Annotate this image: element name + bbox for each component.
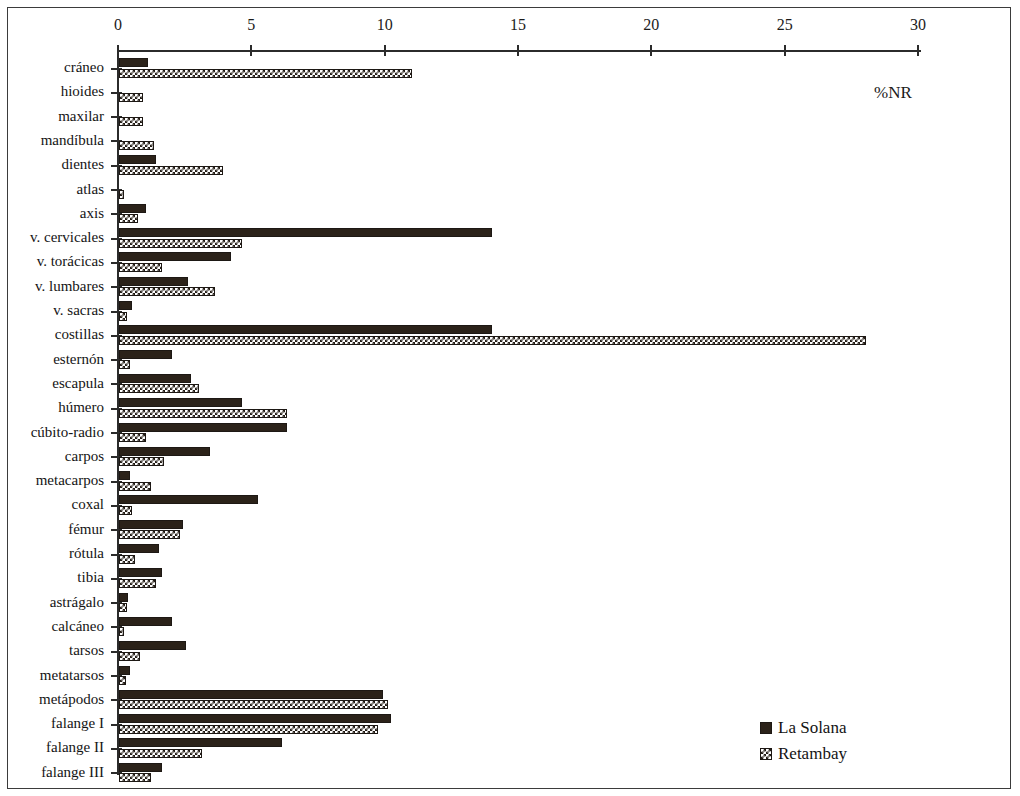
category-label: metápodos xyxy=(0,690,104,709)
bar-row: rótula xyxy=(110,542,990,568)
x-axis-tick xyxy=(650,45,652,56)
bar-row: atlas xyxy=(110,178,990,204)
category-label: húmero xyxy=(0,398,104,417)
bar-row: dientes xyxy=(110,153,990,179)
bar-row: fémur xyxy=(110,518,990,544)
bar-retambay xyxy=(119,555,135,564)
bar-row: maxilar xyxy=(110,105,990,131)
bar-row: escapula xyxy=(110,372,990,398)
bar-row: hioides xyxy=(110,80,990,106)
x-axis-tick-label: 25 xyxy=(777,16,793,34)
legend-swatch-retambay xyxy=(760,748,772,760)
figure-frame: 051015202530 cráneohioidesmaxilarmandíbu… xyxy=(7,7,1011,789)
bar-retambay xyxy=(119,336,866,345)
x-axis-tick xyxy=(250,45,252,56)
bar-la-solana xyxy=(119,447,210,456)
bar-la-solana xyxy=(119,350,172,359)
bar-la-solana xyxy=(119,641,186,650)
bar-la-solana xyxy=(119,58,148,67)
bar-la-solana xyxy=(119,374,191,383)
category-label: hioides xyxy=(0,82,104,101)
bar-retambay xyxy=(119,700,388,709)
category-label: costillas xyxy=(0,325,104,344)
bar-row: falange III xyxy=(110,761,990,787)
x-axis-tick xyxy=(917,45,919,56)
bar-retambay xyxy=(119,239,242,248)
bar-retambay xyxy=(119,773,151,782)
bar-la-solana xyxy=(119,301,132,310)
bar-row: coxal xyxy=(110,493,990,519)
bar-la-solana xyxy=(119,277,188,286)
category-label: v. sacras xyxy=(0,301,104,320)
bar-row: mandíbula xyxy=(110,129,990,155)
bar-row: v. cervicales xyxy=(110,226,990,252)
bar-la-solana xyxy=(119,738,282,747)
bar-retambay xyxy=(119,725,378,734)
bar-retambay xyxy=(119,482,151,491)
bar-la-solana xyxy=(119,398,242,407)
bar-retambay xyxy=(119,579,156,588)
bar-row: costillas xyxy=(110,323,990,349)
category-label: metatarsos xyxy=(0,666,104,685)
bar-retambay xyxy=(119,457,164,466)
bar-la-solana xyxy=(119,690,383,699)
x-axis-tick-label: 0 xyxy=(114,16,122,34)
figure-container: 051015202530 cráneohioidesmaxilarmandíbu… xyxy=(0,0,1020,796)
bar-retambay xyxy=(119,263,162,272)
legend-label: La Solana xyxy=(778,715,846,741)
category-label: dientes xyxy=(0,155,104,174)
bar-row: metápodos xyxy=(110,688,990,714)
bar-row: falange II xyxy=(110,736,990,762)
category-label: tarsos xyxy=(0,641,104,660)
x-axis-tick-label: 10 xyxy=(377,16,393,34)
x-axis-tick-label: 30 xyxy=(910,16,926,34)
bar-retambay xyxy=(119,141,154,150)
bar-la-solana xyxy=(119,544,159,553)
bar-row: v. torácicas xyxy=(110,250,990,276)
bar-la-solana xyxy=(119,593,128,602)
bar-retambay xyxy=(119,506,132,515)
bar-retambay xyxy=(119,214,138,223)
bar-retambay xyxy=(119,384,199,393)
bar-row: v. sacras xyxy=(110,299,990,325)
category-label: falange I xyxy=(0,714,104,733)
legend-label: Retambay xyxy=(778,741,847,767)
bar-la-solana xyxy=(119,714,391,723)
category-label: fémur xyxy=(0,520,104,539)
category-label: atlas xyxy=(0,180,104,199)
category-label: v. cervicales xyxy=(0,228,104,247)
bar-row: cúbito-radio xyxy=(110,421,990,447)
bar-la-solana xyxy=(119,155,156,164)
category-label: escapula xyxy=(0,374,104,393)
bar-retambay xyxy=(119,627,124,636)
chart-legend: La SolanaRetambay xyxy=(760,715,847,767)
category-label: cúbito-radio xyxy=(0,423,104,442)
bar-row: tarsos xyxy=(110,639,990,665)
bar-la-solana xyxy=(119,423,287,432)
category-label: maxilar xyxy=(0,107,104,126)
category-label: metacarpos xyxy=(0,471,104,490)
bar-la-solana xyxy=(119,763,162,772)
bar-la-solana xyxy=(119,252,231,261)
x-axis-tick-label: 15 xyxy=(510,16,526,34)
x-axis-tick xyxy=(517,45,519,56)
bar-retambay xyxy=(119,312,127,321)
bar-row: húmero xyxy=(110,396,990,422)
x-axis-tick-label: 20 xyxy=(643,16,659,34)
bar-retambay xyxy=(119,603,127,612)
category-label: mandíbula xyxy=(0,131,104,150)
category-label: coxal xyxy=(0,495,104,514)
bar-retambay xyxy=(119,287,215,296)
category-label: v. torácicas xyxy=(0,252,104,271)
bar-retambay xyxy=(119,652,140,661)
category-label: tibia xyxy=(0,568,104,587)
bar-row: carpos xyxy=(110,445,990,471)
legend-entry: Retambay xyxy=(760,741,847,767)
category-label: axis xyxy=(0,204,104,223)
x-axis-tick xyxy=(117,45,119,56)
bar-row: metatarsos xyxy=(110,664,990,690)
legend-swatch-la-solana xyxy=(760,722,772,734)
bar-retambay xyxy=(119,530,180,539)
top-axis-line xyxy=(117,50,921,52)
bar-retambay xyxy=(119,190,124,199)
